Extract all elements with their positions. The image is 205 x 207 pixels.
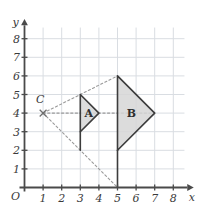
y-tick-label: 7	[13, 51, 20, 64]
x-tick-label: 6	[133, 192, 140, 205]
labels-group: AB1234567812345678xyOC	[11, 16, 196, 205]
point-label-c: C	[36, 93, 45, 106]
grid-lines	[24, 28, 185, 189]
axes-group	[20, 19, 194, 192]
y-axis-label: y	[11, 16, 19, 29]
x-axis-label: x	[189, 191, 196, 204]
y-tick-label: 1	[13, 163, 20, 176]
x-tick-label: 5	[114, 192, 121, 205]
x-tick-label: 2	[57, 192, 65, 205]
y-tick-label: 6	[13, 70, 20, 83]
coordinate-grid-figure: AB1234567812345678xyOC	[0, 0, 205, 207]
shape-label-b: B	[127, 107, 136, 120]
y-tick-label: 8	[13, 33, 20, 46]
origin-label: O	[11, 190, 20, 203]
shape-label-a: A	[83, 107, 93, 120]
plot-svg: AB1234567812345678xyOC	[0, 0, 205, 207]
x-tick-label: 1	[40, 192, 47, 205]
x-tick-label: 8	[170, 192, 177, 205]
x-tick-label: 7	[151, 192, 158, 205]
x-tick-label: 4	[94, 192, 102, 205]
x-tick-label: 3	[77, 192, 84, 205]
y-tick-label: 3	[13, 126, 20, 139]
y-axis-arrow-icon	[21, 19, 28, 25]
y-tick-label: 2	[12, 144, 20, 157]
y-tick-label: 5	[13, 89, 20, 102]
y-tick-label: 4	[12, 107, 20, 120]
